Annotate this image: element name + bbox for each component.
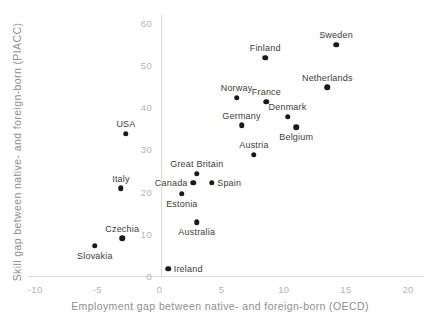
data-point [251,152,257,158]
data-point [239,122,245,128]
point-label: Italy [112,174,130,184]
y-tick-label: 50 [128,61,152,71]
data-point [194,219,200,225]
y-tick-label: 0 [128,272,152,282]
x-tick-label: 0 [157,285,163,295]
point-label: Canada [155,178,188,188]
data-point [333,42,339,48]
plot-area: 0102030405060-10-505101520 SwedenFinland… [0,0,436,326]
data-point [285,114,291,120]
point-label: Slovakia [77,251,113,261]
point-label: Australia [178,227,215,237]
data-point [262,55,268,61]
point-label: Belgium [279,132,313,142]
point-label: Netherlands [302,73,353,83]
data-point [118,186,124,192]
x-tick-label: 10 [278,285,289,295]
point-label: Spain [217,178,241,188]
point-label: Great Britain [170,159,223,169]
data-point [325,84,331,90]
point-label: Austria [239,140,268,150]
x-tick-label: 15 [340,285,351,295]
x-tick-label: 5 [219,285,225,295]
x-tick-label: 20 [403,285,414,295]
y-tick-label: 20 [128,188,152,198]
y-tick-label: 30 [128,145,152,155]
x-axis-title: Employment gap between native- and forei… [71,300,369,312]
y-axis-title: Skill gap between native- and foreign-bo… [11,23,23,282]
x-tick-label: -5 [93,285,102,295]
data-point [209,180,215,186]
y-tick-label: 60 [128,19,152,29]
x-tick-label: -10 [28,285,43,295]
data-point [92,243,98,249]
data-point [165,266,171,272]
scatter-chart: 0102030405060-10-505101520 SwedenFinland… [0,0,436,326]
point-label: Sweden [319,30,353,40]
data-point [194,171,200,177]
point-label: USA [116,119,135,129]
data-point [190,180,196,186]
point-label: Estonia [166,199,197,209]
point-label: Czechia [105,224,139,234]
point-label: Denmark [269,102,307,112]
data-point [293,124,299,130]
point-label: France [252,87,281,97]
data-point [179,191,185,197]
y-tick-label: 40 [128,103,152,113]
point-label: Germany [222,111,260,121]
y-axis-line [161,15,162,276]
data-point [234,95,240,101]
point-label: Finland [250,43,281,53]
x-axis-line [28,276,424,277]
point-label: Ireland [174,264,203,274]
data-point [119,235,125,241]
point-label: Norway [221,83,253,93]
data-point [123,131,129,137]
